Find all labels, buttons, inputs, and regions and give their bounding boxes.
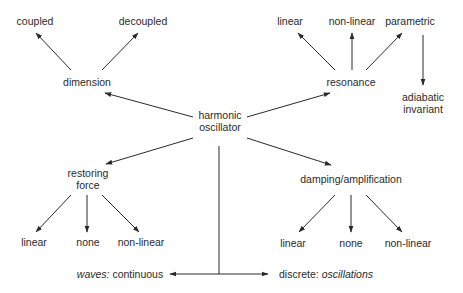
root-line1: harmonic (198, 109, 241, 121)
oscillations-label: oscillations (322, 268, 373, 280)
node-restoring-nonlinear: non-linear (118, 236, 165, 248)
connector-arrows (0, 0, 463, 293)
node-dimension: dimension (63, 76, 111, 88)
node-damping-nonlinear: non-linear (385, 237, 432, 249)
node-harmonic-oscillator: harmonic oscillator (198, 109, 241, 133)
adiabatic-line1: adiabatic (402, 91, 444, 103)
arrow-restoring-linear (36, 195, 71, 232)
node-waves-continuous: waves: continuous (77, 268, 163, 280)
arrow-root-restoring-force (106, 138, 193, 164)
waves-label: waves: (77, 268, 110, 280)
arrow-damping-linear (299, 195, 335, 232)
node-adiabatic-invariant: adiabatic invariant (402, 91, 444, 115)
adiabatic-line2: invariant (402, 103, 444, 115)
arrow-root-dimension (105, 93, 193, 117)
node-damping-none: none (339, 237, 362, 249)
restoring-line2: force (68, 179, 109, 191)
node-resonance-linear: linear (277, 15, 303, 27)
discrete-label: discrete: (279, 268, 322, 280)
arrow-root-damping (247, 138, 331, 165)
node-restoring-linear: linear (21, 236, 47, 248)
node-resonance-nonlinear: non-linear (329, 15, 376, 27)
node-parametric: parametric (385, 15, 435, 27)
arrow-restoring-nonlinear (102, 195, 139, 232)
restoring-line1: restoring (68, 167, 109, 179)
node-damping-linear: linear (280, 237, 306, 249)
arrow-dimension-decoupled (102, 33, 138, 70)
node-restoring-none: none (76, 236, 99, 248)
node-restoring-force: restoring force (68, 167, 109, 191)
node-discrete-oscillations: discrete: oscillations (279, 268, 373, 280)
arrow-root-resonance (247, 93, 330, 117)
node-coupled: coupled (17, 15, 54, 27)
node-resonance: resonance (326, 76, 375, 88)
root-line2: oscillator (198, 121, 241, 133)
arrow-dimension-coupled (36, 33, 71, 70)
node-decoupled: decoupled (119, 15, 167, 27)
continuous-label: continuous (109, 268, 163, 280)
arrow-resonance-parametric (366, 33, 402, 70)
arrow-damping-nonlinear (366, 195, 402, 232)
harmonic-oscillator-concept-map: coupled decoupled dimension harmonic osc… (0, 0, 463, 293)
node-damping-amplification: damping/amplification (300, 173, 402, 185)
arrow-resonance-linear (298, 33, 335, 70)
